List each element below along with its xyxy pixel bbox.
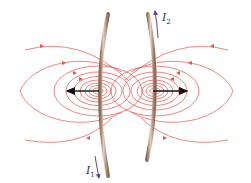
current-label-i1: I1 [86, 164, 95, 179]
current-label-i2: I2 [162, 11, 171, 26]
current-arrow-i1 [95, 156, 99, 178]
current-arrow-i2 [155, 11, 158, 38]
field-direction-markers-left [40, 44, 90, 140]
diagram-canvas [0, 0, 251, 183]
field-direction-markers-right [163, 44, 214, 140]
